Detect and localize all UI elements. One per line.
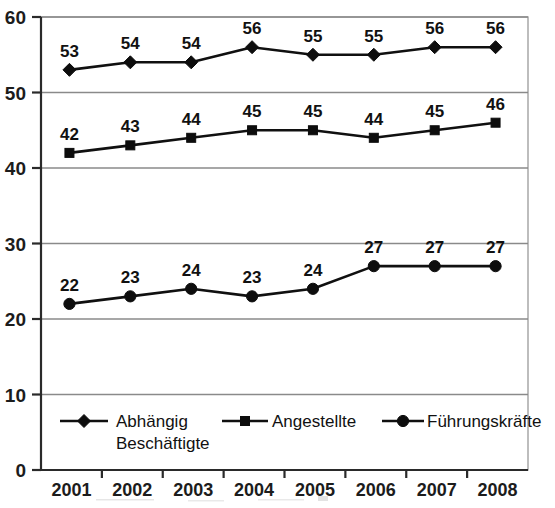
data-label-2-6: 45 xyxy=(425,102,444,121)
y-tick-label-60: 60 xyxy=(5,7,26,28)
x-tick-label-2002: 2002 xyxy=(112,480,152,500)
data-label-2-1: 43 xyxy=(121,117,140,136)
data-label-1-5: 55 xyxy=(364,27,383,46)
y-tick-label-20: 20 xyxy=(5,309,26,330)
data-label-1-6: 56 xyxy=(425,19,444,38)
y-tick-label-0: 0 xyxy=(15,460,26,481)
legend-marker-square-icon xyxy=(241,417,250,426)
data-label-3-1: 23 xyxy=(121,268,140,287)
data-point-2-1 xyxy=(126,141,135,150)
data-point-2-2 xyxy=(187,133,196,142)
chart-background xyxy=(0,0,555,508)
data-point-3-0 xyxy=(64,298,75,309)
data-point-2-4 xyxy=(308,126,317,135)
data-point-3-7 xyxy=(490,261,501,272)
data-point-2-6 xyxy=(430,126,439,135)
legend-label-3: Führungskräfte xyxy=(427,412,541,431)
data-label-3-4: 24 xyxy=(303,261,322,280)
data-label-1-1: 54 xyxy=(121,34,140,53)
x-tick-label-2001: 2001 xyxy=(51,480,91,500)
data-label-2-0: 42 xyxy=(60,125,79,144)
data-label-2-5: 44 xyxy=(364,110,383,129)
data-point-3-6 xyxy=(429,261,440,272)
chart-canvas: 0102030405060 20012002200320042005200620… xyxy=(0,0,555,508)
x-tick-label-2006: 2006 xyxy=(356,480,396,500)
data-label-1-0: 53 xyxy=(60,42,79,61)
data-label-3-6: 27 xyxy=(425,238,444,257)
y-tick-label-50: 50 xyxy=(5,83,26,104)
data-label-1-7: 56 xyxy=(486,19,505,38)
data-label-3-7: 27 xyxy=(486,238,505,257)
x-tick-label-2004: 2004 xyxy=(234,480,274,500)
data-point-3-5 xyxy=(368,261,379,272)
data-point-2-3 xyxy=(248,126,257,135)
data-point-3-4 xyxy=(307,283,318,294)
line-chart: 0102030405060 20012002200320042005200620… xyxy=(0,0,555,508)
data-label-1-3: 56 xyxy=(243,19,262,38)
data-label-2-2: 44 xyxy=(182,110,201,129)
data-point-2-5 xyxy=(369,133,378,142)
legend-label-1-line2: Beschäftigte xyxy=(116,434,210,453)
data-point-3-3 xyxy=(246,291,257,302)
data-label-2-3: 45 xyxy=(243,102,262,121)
data-point-3-2 xyxy=(186,283,197,294)
y-tick-label-30: 30 xyxy=(5,234,26,255)
data-label-2-7: 46 xyxy=(486,95,505,114)
x-tick-label-2005: 2005 xyxy=(295,480,335,500)
data-label-3-2: 24 xyxy=(182,261,201,280)
x-tick-label-2003: 2003 xyxy=(173,480,213,500)
data-point-2-0 xyxy=(65,148,74,157)
data-label-1-2: 54 xyxy=(182,34,201,53)
y-tick-label-40: 40 xyxy=(5,158,26,179)
x-tick-label-2007: 2007 xyxy=(417,480,457,500)
data-label-3-5: 27 xyxy=(364,238,383,257)
legend-label-2: Angestellte xyxy=(272,412,356,431)
legend-label-1: Abhängig xyxy=(116,412,188,431)
y-tick-label-10: 10 xyxy=(5,385,26,406)
legend-marker-circle-icon xyxy=(397,415,408,426)
data-label-2-4: 45 xyxy=(303,102,322,121)
data-point-2-7 xyxy=(491,118,500,127)
x-tick-label-2008: 2008 xyxy=(478,480,518,500)
data-label-3-0: 22 xyxy=(60,276,79,295)
data-label-1-4: 55 xyxy=(303,27,322,46)
data-label-3-3: 23 xyxy=(243,268,262,287)
data-point-3-1 xyxy=(125,291,136,302)
